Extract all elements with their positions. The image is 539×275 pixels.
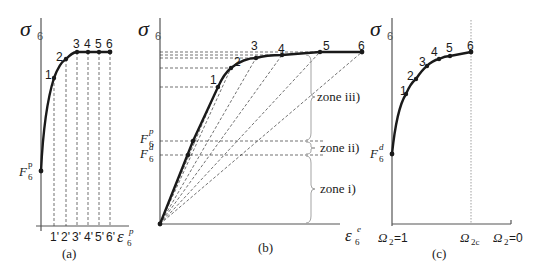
panel-c-caption: (c) [432,246,446,261]
panel-a-x-label: ε 6 p [117,226,134,248]
svg-text:F: F [139,131,149,146]
panel-b-pt3: 3 [251,39,258,53]
svg-text:6: 6 [127,238,132,248]
svg-text:ε: ε [345,226,352,245]
svg-text:d: d [149,142,154,152]
svg-text:2c: 2c [471,237,480,247]
panel-a-pt5: 5 [95,37,102,51]
panel-a-caption: (a) [62,246,76,261]
panel-c-pt3: 3 [419,55,426,69]
svg-text:F: F [369,146,379,161]
zone-ii-label: zone ii) [320,140,359,155]
svg-text:=0: =0 [509,231,523,245]
panel-b: σ 6 [138,16,365,255]
panel-b-secant-lines [160,52,362,224]
panel-b-y-label: σ [138,16,150,41]
panel-b-fd-label: F 6 d [139,142,154,164]
panel-b-caption: (b) [258,240,273,255]
panel-b-pt2: 2 [234,55,241,69]
panel-c-tick-omega2c: Ω 2c [460,230,480,247]
svg-text:2': 2' [61,230,70,244]
panel-c-pt6: 6 [467,39,474,53]
svg-text:6: 6 [355,237,360,247]
svg-text:2: 2 [504,237,509,247]
panel-c-pt2: 2 [407,69,414,83]
panel-c-tick-omega2-0: Ω 2 =0 [493,230,523,247]
panel-b-pt5: 5 [323,39,330,53]
panel-a-pt2: 2 [56,50,63,64]
panel-c-pt1: 1 [400,84,407,98]
panel-b-x-label: ε 6 e [345,224,361,247]
panel-a-y-label: σ [20,16,32,41]
panel-b-brace-zone-iii [306,55,315,140]
svg-text:d: d [379,142,384,152]
panel-c-y-label: σ [370,16,382,41]
svg-text:Ω: Ω [493,230,502,245]
panel-c-pt4: 4 [431,45,438,59]
panel-c: σ 6 1 2 3 4 5 6 F 6 d Ω 2 =1 [369,16,523,261]
svg-text:Ω: Ω [460,230,469,245]
panel-a-pt6: 6 [106,37,113,51]
panel-a-pt3: 3 [73,37,80,51]
svg-text:e: e [357,224,361,234]
svg-text:F: F [139,146,149,161]
panel-a-pt4: 4 [84,37,91,51]
panel-b-pt4: 4 [278,42,285,56]
svg-text:p: p [128,226,134,236]
panel-b-brace-zone-i [306,156,315,223]
zone-iii-label: zone iii) [317,89,360,104]
svg-text:5': 5' [95,230,104,244]
svg-text:=1: =1 [394,231,408,245]
svg-text:6: 6 [379,154,384,164]
panel-a-y-label-sub: 6 [37,30,43,42]
panel-c-fd-label: F 6 d [369,142,384,164]
panel-b-pt6: 6 [358,39,365,53]
svg-text:ε: ε [117,227,124,246]
panel-b-horizontals [160,52,325,155]
panel-c-curve [392,52,471,154]
svg-text:4': 4' [84,230,93,244]
figure-canvas: .ax { stroke:#555; stroke-width:1.2; fil… [0,0,539,275]
svg-text:p: p [28,159,33,169]
svg-text:p: p [148,126,154,136]
panel-a: σ 6 1 2 3 4 5 6 F 6 [18,16,134,261]
panel-c-tick-omega2-1: Ω 2 =1 [378,230,408,247]
panel-a-verticals [54,52,110,226]
panel-c-pt5: 5 [446,41,453,55]
svg-text:2: 2 [389,237,394,247]
svg-text:3': 3' [72,230,81,244]
panel-a-pt1: 1 [45,68,52,82]
svg-text:F: F [18,164,28,179]
zone-i-label: zone i) [320,181,356,196]
svg-text:6: 6 [28,172,33,182]
panel-a-f-label: F 6 p [18,159,33,182]
panel-a-x-ticks: 1' 2' 3' 4' 5' 6' [50,230,115,244]
svg-text:6: 6 [149,154,154,164]
panel-b-brace-zone-ii [306,142,315,154]
svg-text:6': 6' [106,230,115,244]
svg-text:1': 1' [50,230,59,244]
panel-b-pt1: 1 [210,73,217,87]
svg-text:Ω: Ω [378,230,387,245]
